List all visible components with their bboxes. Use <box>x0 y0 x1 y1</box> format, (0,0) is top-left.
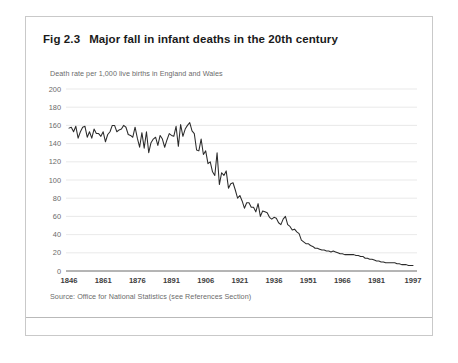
x-tick-label: 1997 <box>405 276 422 285</box>
x-tick-label: 1921 <box>231 276 249 285</box>
figure-card: Fig 2.3Major fall in infant deaths in th… <box>25 16 433 336</box>
line-chart: 020406080100120140160180200 184618611876… <box>26 17 434 337</box>
y-tick-label: 140 <box>49 139 61 148</box>
x-tick-label: 1966 <box>334 276 351 285</box>
x-tick-label: 1951 <box>300 276 318 285</box>
x-tick-label: 1891 <box>163 276 181 285</box>
y-tick-label: 0 <box>57 267 61 276</box>
y-axis-tick-labels: 020406080100120140160180200 <box>49 85 61 276</box>
screenshot-page: Fig 2.3Major fall in infant deaths in th… <box>0 0 458 363</box>
y-tick-label: 80 <box>53 194 61 203</box>
y-tick-label: 40 <box>53 230 61 239</box>
x-tick-label: 1861 <box>95 276 113 285</box>
x-axis-tick-labels: 1846186118761891190619211936195119661981… <box>61 276 422 285</box>
y-tick-label: 60 <box>53 212 61 221</box>
x-tick-label: 1936 <box>266 276 283 285</box>
source-note: Source: Office for National Statistics (… <box>50 292 251 301</box>
y-tick-label: 100 <box>49 176 61 185</box>
infant-mortality-line <box>69 123 413 266</box>
grid-lines <box>66 89 417 253</box>
y-tick-label: 200 <box>49 85 61 94</box>
x-tick-label: 1846 <box>61 276 78 285</box>
bottom-divider <box>26 317 432 318</box>
x-tick-label: 1906 <box>197 276 214 285</box>
x-tick-label: 1981 <box>368 276 386 285</box>
y-tick-label: 180 <box>49 103 61 112</box>
y-tick-label: 20 <box>53 248 61 257</box>
plot-area: 020406080100120140160180200 184618611876… <box>26 17 434 337</box>
y-tick-label: 120 <box>49 157 61 166</box>
y-tick-label: 160 <box>49 121 61 130</box>
x-tick-label: 1876 <box>129 276 146 285</box>
